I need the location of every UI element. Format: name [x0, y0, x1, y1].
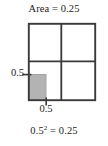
y-axis-value-label: 0.5	[3, 68, 24, 79]
formula-base: 0.5	[30, 125, 43, 136]
formula-result: = 0.25	[47, 125, 77, 136]
area-diagram-figure: Area = 0.25 0.5 0.5 0.52 = 0.25	[0, 0, 108, 146]
shaded-area-square	[30, 75, 47, 101]
x-axis-value-label: 0.5	[31, 104, 61, 115]
area-formula: 0.52 = 0.25	[0, 126, 108, 137]
